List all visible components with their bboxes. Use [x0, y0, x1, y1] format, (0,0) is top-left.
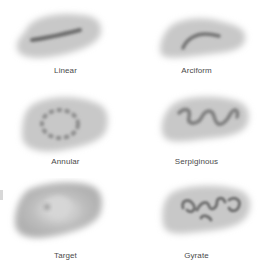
panel-gyrate: Gyrate — [131, 178, 262, 267]
panel-label: Annular — [0, 157, 131, 166]
panel-label: Arciform — [131, 66, 262, 75]
panel-label: Target — [0, 251, 131, 260]
panel-linear: Linear — [0, 0, 131, 89]
linear-lesion-illustration — [0, 0, 131, 89]
panel-target: Target — [0, 178, 131, 267]
panel-label: Linear — [0, 66, 131, 75]
panel-annular: Annular — [0, 89, 131, 178]
panel-serpiginous: Serpiginous — [131, 89, 262, 178]
panel-arciform: Arciform — [131, 0, 262, 89]
arciform-lesion-illustration — [131, 0, 262, 89]
panel-label: Serpiginous — [131, 157, 262, 166]
panel-label: Gyrate — [131, 251, 262, 260]
